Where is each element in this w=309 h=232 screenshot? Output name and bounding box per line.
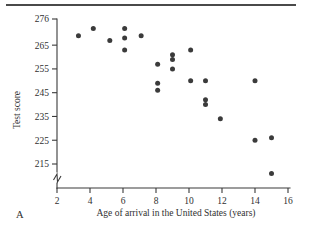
data-point (76, 33, 81, 38)
data-point (139, 33, 144, 38)
y-tick-label: 215 (35, 159, 50, 169)
data-point (155, 81, 160, 86)
x-tick-label: 8 (154, 196, 159, 206)
data-point (170, 52, 175, 57)
x-tick-label: 6 (121, 196, 126, 206)
y-tick-group: 215225235245255265276 (35, 14, 57, 169)
data-point-group (76, 26, 274, 176)
y-tick-label: 245 (35, 88, 50, 98)
panel-label-a: A (16, 209, 24, 220)
data-point (155, 88, 160, 93)
x-axis-title: Age of arrival in the United States (yea… (96, 208, 255, 219)
data-point (269, 135, 274, 140)
x-tick-label: 10 (184, 196, 194, 206)
data-point (170, 66, 175, 71)
x-tick-label: 14 (250, 196, 260, 206)
data-point (253, 78, 258, 83)
y-tick-label: 225 (35, 136, 50, 146)
scatter-plot: 215225235245255265276 246810121416 Test … (0, 0, 309, 232)
x-tick-label: 12 (217, 196, 227, 206)
data-point (269, 171, 274, 176)
data-point (203, 78, 208, 83)
data-point (122, 26, 127, 31)
data-point (203, 97, 208, 102)
data-point (122, 47, 127, 52)
data-point (122, 36, 127, 41)
y-tick-label: 235 (35, 112, 50, 122)
data-point (188, 47, 193, 52)
x-tick-label: 4 (88, 196, 93, 206)
data-point (253, 138, 258, 143)
data-point (107, 38, 112, 43)
data-point (155, 62, 160, 67)
x-tick-label: 16 (283, 196, 293, 206)
y-axis-break-icon (54, 174, 62, 182)
y-axis-title: Test score (12, 91, 22, 129)
data-point (188, 78, 193, 83)
y-tick-label: 255 (35, 64, 50, 74)
x-tick-group: 246810121416 (55, 188, 293, 206)
data-point (203, 102, 208, 107)
data-point (170, 57, 175, 62)
data-point (218, 116, 223, 121)
y-tick-label: 265 (35, 41, 50, 51)
x-tick-label: 2 (55, 196, 60, 206)
y-tick-label: 276 (35, 14, 50, 24)
data-point (91, 26, 96, 31)
y-axis (54, 19, 62, 188)
figure-panel-a: 215225235245255265276 246810121416 Test … (0, 0, 309, 232)
